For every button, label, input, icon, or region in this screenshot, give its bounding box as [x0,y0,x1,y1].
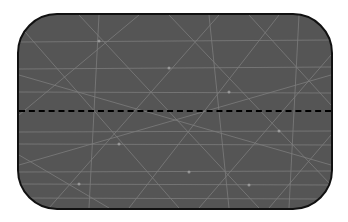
canvas [0,0,348,222]
textured-rounded-panel [17,13,333,210]
dashed-divider-line [19,110,331,112]
